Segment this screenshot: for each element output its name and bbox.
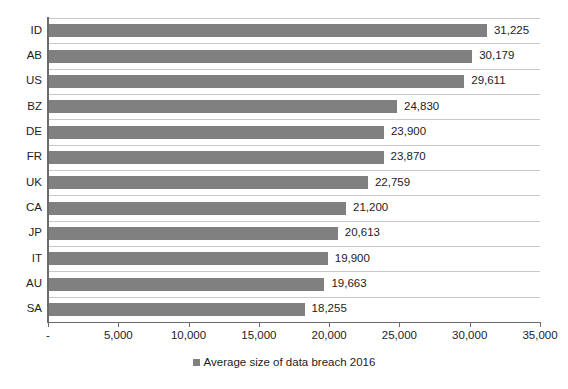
bar-value-label: 24,830 [404,101,439,113]
bar-value-label: 19,663 [331,278,366,290]
bar [48,202,346,215]
gridline [48,297,540,298]
x-axis-tick-mark [259,322,260,327]
legend-entry: Average size of data breach 2016 [193,357,376,369]
y-axis-category-label: ID [2,25,42,37]
bar [48,126,384,139]
y-axis-category-label: AB [2,50,42,62]
y-axis-category-label: AU [2,278,42,290]
x-axis-tick-mark [48,322,49,327]
bar [48,252,328,265]
bar-value-label: 18,255 [312,303,347,315]
plot-area: 31,22530,17929,61124,83023,90023,87022,7… [48,18,540,322]
legend-swatch-icon [193,359,200,366]
bar-chart: 31,22530,17929,61124,83023,90023,87022,7… [0,0,568,389]
x-axis-tick-label: 15,000 [241,330,276,342]
x-axis-tick-label: - [46,330,50,342]
x-axis-tick-mark [470,322,471,327]
y-axis-category-label: CA [2,202,42,214]
gridline [48,145,540,146]
bar-value-label: 29,611 [471,75,505,87]
bar [48,50,472,63]
bar [48,151,384,164]
gridline [48,18,540,19]
bar-value-label: 20,613 [345,227,380,239]
gridline [48,94,540,95]
x-axis-line [48,322,541,323]
bar [48,303,305,316]
gridline [48,221,540,222]
bar-value-label: 23,900 [391,126,426,138]
y-axis-category-labels: IDABUSBZDEFRUKCAJPITAUSA [0,18,42,322]
y-axis-category-label: JP [2,227,42,239]
gridline [48,195,540,196]
y-axis-category-label: SA [2,303,42,315]
bar [48,75,464,88]
x-axis-tick-label: 10,000 [171,330,206,342]
bar-value-label: 22,759 [375,177,410,189]
x-axis-tick-mark [540,322,541,327]
gridline [48,43,540,44]
x-axis-tick-mark [118,322,119,327]
y-axis-line [47,17,49,323]
gridline [48,119,540,120]
x-axis-tick-label: 35,000 [522,330,557,342]
chart-legend: Average size of data breach 2016 [0,357,568,369]
y-axis-category-label: FR [2,151,42,163]
x-axis-tick-mark [329,322,330,327]
x-axis-tick-label: 30,000 [452,330,487,342]
bar [48,100,397,113]
x-axis-tick-mark [189,322,190,327]
y-axis-category-label: UK [2,177,42,189]
y-axis-category-label: BZ [2,101,42,113]
gridline [48,271,540,272]
bar-value-label: 30,179 [479,50,514,62]
bar [48,278,324,291]
bar-value-label: 31,225 [494,25,529,37]
gridline [48,170,540,171]
x-axis-tick-label: 25,000 [382,330,417,342]
x-axis-tick-mark [399,322,400,327]
gridline [48,246,540,247]
bar-value-label: 21,200 [353,202,388,214]
bar [48,227,338,240]
gridline [48,69,540,70]
bar [48,24,487,37]
x-axis-tick-label: 5,000 [104,330,133,342]
bar [48,176,368,189]
x-axis-tick-label: 20,000 [312,330,347,342]
bar-value-label: 23,870 [391,151,426,163]
y-axis-category-label: DE [2,126,42,138]
y-axis-category-label: US [2,75,42,87]
legend-label: Average size of data breach 2016 [204,357,376,369]
y-axis-category-label: IT [2,253,42,265]
bar-value-label: 19,900 [335,253,370,265]
